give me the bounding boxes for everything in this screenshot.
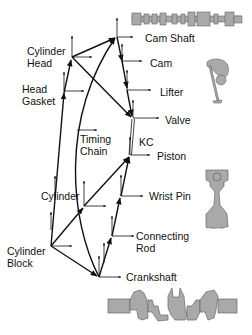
label-cam: Cam <box>150 57 172 69</box>
label-cam-shaft: Cam Shaft <box>145 32 195 44</box>
label-line: Gasket <box>22 95 55 107</box>
label-cylinder: Cylinder <box>41 190 80 202</box>
camshaft-illustration <box>132 12 242 26</box>
chain-edges <box>51 37 132 277</box>
label-valve: Valve <box>165 114 191 126</box>
crankshaft-illustration <box>108 288 237 321</box>
label-kc: KC <box>139 136 154 148</box>
label-line: Timing <box>80 133 111 145</box>
label-wrist-pin: Wrist Pin <box>149 190 191 202</box>
label-head-gasket: Head Gasket <box>22 83 55 107</box>
label-line: Block <box>7 257 46 269</box>
piston-rod-illustration <box>206 170 228 228</box>
label-line: Head <box>27 57 66 69</box>
label-cylinder-block: Cylinder Block <box>7 245 46 269</box>
label-line: Rod <box>136 242 189 254</box>
label-line: Connecting <box>136 230 189 242</box>
label-connecting-rod: Connecting Rod <box>136 230 189 254</box>
label-line: Head <box>22 83 55 95</box>
label-cylinder-head: Cylinder Head <box>27 45 66 69</box>
label-line: Cylinder <box>27 45 66 57</box>
label-lifter: Lifter <box>160 86 183 98</box>
label-timing-chain: Timing Chain <box>80 133 111 157</box>
label-piston: Piston <box>157 150 186 162</box>
label-line: Cylinder <box>7 245 46 257</box>
label-line: Chain <box>80 145 111 157</box>
label-crankshaft: Crankshaft <box>126 271 177 283</box>
cam-valve-illustration <box>207 59 229 103</box>
